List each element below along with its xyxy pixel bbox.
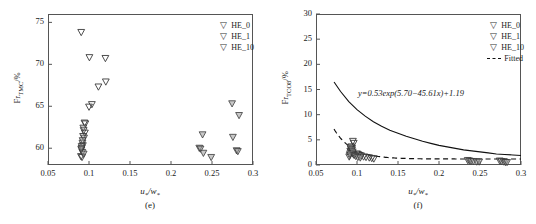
y-tick-label: 5	[288, 135, 312, 144]
triangle-down-icon: ▽	[217, 43, 229, 52]
x-tick-label: 0.2	[422, 169, 456, 178]
x-tick-label: 0.15	[381, 169, 415, 178]
legend-label: HE_0	[501, 20, 520, 31]
data-point-marker	[102, 55, 109, 61]
legend-item: ▽ HE_10	[487, 42, 524, 53]
x-tick-label: 0.25	[195, 169, 229, 178]
data-point-marker	[95, 84, 102, 90]
fit-equation-annotation: y=0.53exp(5.70−45.61x)+1.19	[358, 88, 464, 98]
legend-f: ▽ HE_0 ▽ HE_1 ▽ HE_10 Fitted	[487, 20, 524, 64]
panel-f: FrTCO8/% u*/w* (f) y=0.53exp(5.70−45.61x…	[268, 0, 536, 224]
subfigure-label-f: (f)	[358, 200, 478, 210]
figure-container: FrTMC/% u*/w* (e) ▽ HE_0 ▽ HE_1 ▽ HE_10 …	[0, 0, 536, 224]
triangle-down-icon: ▽	[217, 21, 229, 30]
y-tick-label: 65	[20, 101, 44, 110]
y-tick-label: 20	[288, 59, 312, 68]
y-axis-label-f-unit: /%	[280, 71, 290, 80]
data-point-marker	[86, 55, 93, 61]
x-tick-label: 0.2	[154, 169, 188, 178]
legend-e: ▽ HE_0 ▽ HE_1 ▽ HE_10	[217, 20, 254, 53]
fitted-curve	[334, 129, 521, 159]
panel-e: FrTMC/% u*/w* (e) ▽ HE_0 ▽ HE_1 ▽ HE_10 …	[0, 0, 268, 224]
y-tick-label: 25	[288, 34, 312, 43]
y-tick-label: 15	[288, 85, 312, 94]
data-point-marker	[236, 113, 243, 119]
data-point-marker	[199, 132, 206, 138]
y-tick-label: 30	[288, 9, 312, 18]
legend-item: Fitted	[487, 53, 524, 64]
data-point-marker	[200, 150, 207, 156]
x-tick-label: 0.25	[463, 169, 497, 178]
x-tick-label: 0.05	[31, 169, 65, 178]
x-axis-label-e: u*/w*	[90, 186, 210, 198]
y-tick-label: 60	[20, 143, 44, 152]
legend-label: HE_10	[501, 42, 524, 53]
legend-label: HE_10	[231, 42, 254, 53]
legend-item: ▽ HE_0	[487, 20, 524, 31]
data-point-marker	[78, 29, 85, 35]
x-tick-label: 0.1	[72, 169, 106, 178]
legend-item: ▽ HE_0	[217, 20, 254, 31]
data-point-marker	[102, 79, 109, 85]
data-point-marker	[208, 154, 215, 160]
x-axis-label-f: u*/w*	[358, 186, 478, 198]
y-axis-label-f-text: Fr	[280, 97, 290, 105]
subfigure-label-e: (e)	[90, 200, 210, 210]
legend-label: HE_1	[501, 31, 520, 42]
triangle-down-icon: ▽	[487, 43, 499, 52]
y-tick-label: 10	[288, 110, 312, 119]
dashed-line-icon	[487, 58, 501, 59]
triangle-down-icon: ▽	[217, 32, 229, 41]
y-tick-label: 70	[20, 59, 44, 68]
legend-label: HE_0	[231, 20, 250, 31]
legend-item: ▽ HE_1	[487, 31, 524, 42]
triangle-down-icon: ▽	[487, 32, 499, 41]
data-point-marker	[230, 134, 237, 140]
legend-label: HE_1	[231, 31, 250, 42]
legend-label: Fitted	[504, 53, 523, 64]
x-tick-label: 0.3	[504, 169, 536, 178]
x-tick-label: 0.3	[236, 169, 270, 178]
x-tick-label: 0.05	[299, 169, 333, 178]
x-tick-label: 0.1	[340, 169, 374, 178]
x-tick-label: 0.15	[113, 169, 147, 178]
y-axis-label-e-sub: TMC	[17, 82, 24, 96]
legend-item: ▽ HE_10	[217, 42, 254, 53]
y-tick-label: 75	[20, 17, 44, 26]
legend-item: ▽ HE_1	[217, 31, 254, 42]
y-tick-label: 0	[288, 160, 312, 169]
data-point-marker	[229, 101, 236, 107]
y-axis-label-e-unit: /%	[12, 72, 22, 81]
triangle-down-icon: ▽	[487, 21, 499, 30]
